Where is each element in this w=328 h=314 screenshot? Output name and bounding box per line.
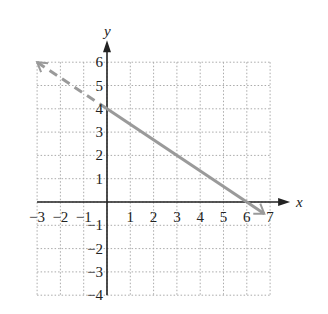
x-tick-label: 4	[196, 209, 204, 225]
y-tick-label: −3	[87, 264, 103, 280]
x-axis-label: x	[295, 194, 303, 210]
y-tick-label: −1	[87, 217, 103, 233]
y-axis-label: y	[102, 23, 111, 39]
x-tick-label: 5	[220, 209, 228, 225]
x-tick-label: 2	[150, 209, 158, 225]
y-tick-label: 4	[96, 101, 104, 117]
y-tick-label: −4	[87, 287, 103, 303]
x-axis-arrow-icon	[278, 198, 290, 206]
x-tick-label: 6	[243, 209, 251, 225]
grid-lines	[37, 62, 270, 295]
x-tick-label: 1	[127, 209, 135, 225]
axes: xy	[37, 23, 303, 295]
y-tick-label: 2	[96, 147, 104, 163]
y-tick-label: 5	[96, 78, 104, 94]
y-tick-label: 3	[96, 124, 104, 140]
y-tick-label: 6	[96, 54, 104, 70]
plotted-line	[37, 62, 264, 213]
y-axis-arrow-icon	[103, 40, 111, 52]
x-tick-label: 3	[173, 209, 181, 225]
x-tick-label: −3	[29, 209, 45, 225]
y-tick-label: 1	[96, 171, 104, 187]
x-tick-label: −2	[52, 209, 68, 225]
y-tick-label: −2	[87, 241, 103, 257]
coordinate-plane: xy −3−2−11234567654321−1−2−3−4	[0, 0, 328, 314]
x-tick-label: 7	[266, 209, 274, 225]
